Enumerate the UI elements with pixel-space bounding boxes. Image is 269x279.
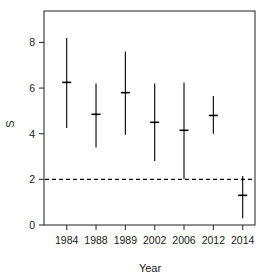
error-bar bbox=[180, 82, 189, 179]
error-bar bbox=[209, 96, 218, 134]
x-axis: 1984198819892002200620122014 bbox=[55, 225, 254, 246]
x-tick-label: 1988 bbox=[84, 234, 108, 246]
y-tick-label: 6 bbox=[29, 82, 35, 94]
series-error-bars bbox=[62, 38, 247, 218]
x-tick-label: 2002 bbox=[143, 234, 167, 246]
error-bar-plot: 02468 1984198819892002200620122014 S Yea… bbox=[0, 0, 269, 279]
error-bar bbox=[92, 84, 101, 148]
chart-container: 02468 1984198819892002200620122014 S Yea… bbox=[0, 0, 269, 279]
x-tick-label: 2012 bbox=[202, 234, 226, 246]
plot-frame bbox=[44, 11, 255, 225]
x-tick-label: 2006 bbox=[172, 234, 196, 246]
error-bar bbox=[121, 52, 130, 135]
y-axis: 02468 bbox=[29, 36, 44, 231]
y-tick-label: 8 bbox=[29, 36, 35, 48]
y-tick-label: 0 bbox=[29, 219, 35, 231]
x-tick-label: 2014 bbox=[231, 234, 255, 246]
y-tick-label: 2 bbox=[29, 173, 35, 185]
error-bar bbox=[62, 38, 71, 128]
error-bar bbox=[150, 84, 159, 162]
x-tick-label: 1984 bbox=[55, 234, 79, 246]
x-tick-label: 1989 bbox=[114, 234, 138, 246]
error-bar bbox=[238, 176, 247, 218]
y-axis-title: S bbox=[4, 120, 16, 127]
y-tick-label: 4 bbox=[29, 128, 35, 140]
x-axis-title: Year bbox=[139, 262, 162, 274]
